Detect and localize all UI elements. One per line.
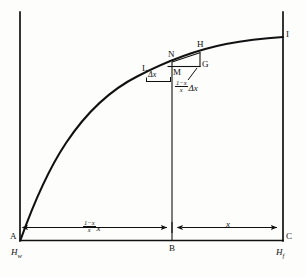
left-dimension-fraction: 1−x x bbox=[83, 220, 96, 235]
figure-drawing bbox=[0, 0, 306, 277]
slope-expression: 1−x x Δx bbox=[175, 78, 198, 95]
slope-expression-tail: Δx bbox=[188, 83, 198, 93]
point-label-L: L bbox=[142, 64, 148, 73]
point-label-M: M bbox=[173, 68, 181, 77]
point-label-G: G bbox=[202, 60, 209, 69]
point-label-N: N bbox=[168, 50, 175, 59]
right-axis-label-sub: f bbox=[283, 252, 285, 259]
slope-expression-denominator: x bbox=[175, 87, 188, 94]
right-axis-label: Hf bbox=[276, 248, 284, 259]
point-label-A: A bbox=[10, 232, 17, 241]
point-label-C: C bbox=[286, 232, 292, 241]
right-dimension-label: x bbox=[226, 220, 230, 229]
left-dimension-tail: x bbox=[96, 223, 101, 233]
delta-x-label: Δx bbox=[148, 71, 156, 79]
figure-root: A B C I L N M H G Hw Hf Δx 1−x x Δx 1−x … bbox=[0, 0, 306, 277]
point-label-I: I bbox=[286, 30, 289, 39]
slope-expression-fraction: 1−x x bbox=[175, 80, 188, 95]
point-label-B: B bbox=[169, 244, 175, 253]
left-dimension-denominator: x bbox=[83, 227, 96, 234]
saturation-curve bbox=[21, 37, 284, 240]
left-dimension-label: 1−x x x bbox=[83, 218, 101, 235]
point-label-H: H bbox=[197, 40, 204, 49]
left-axis-label-sub: w bbox=[18, 252, 22, 259]
left-axis-label: Hw bbox=[11, 248, 22, 259]
